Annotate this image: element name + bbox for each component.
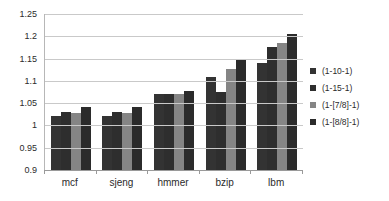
legend-label: (1-10-1) [322, 66, 352, 76]
legend-item[interactable]: (1-15-1) [310, 79, 389, 96]
bar [267, 47, 277, 170]
y-tick-label: 1 [32, 121, 37, 130]
legend-label: (1-[8/8]-1) [322, 117, 359, 127]
bar [164, 94, 174, 170]
bar [206, 77, 216, 170]
y-tick-label: 1.05 [19, 99, 37, 108]
bar [71, 113, 81, 170]
legend-swatch-icon [310, 85, 316, 91]
bar-groups [45, 14, 303, 170]
y-tick-label: 0.9 [24, 166, 37, 175]
x-tick-mark [96, 170, 97, 174]
x-tick-mark [199, 170, 200, 174]
bar [287, 34, 297, 170]
x-tick-mark [147, 170, 148, 174]
gridline [45, 148, 303, 149]
x-tick-mark [302, 170, 303, 174]
bar-group-hmmer [148, 14, 200, 170]
gridline [45, 125, 303, 126]
x-tick-mark [250, 170, 251, 174]
x-axis-labels: mcfsjenghmmerbziplbm [44, 176, 302, 194]
legend-swatch-icon [310, 119, 316, 125]
bar [257, 63, 267, 170]
x-tick-label: bzip [199, 176, 251, 194]
bar [122, 113, 132, 170]
bar [81, 107, 91, 170]
bar [132, 107, 142, 170]
x-tick-label: lbm [250, 176, 302, 194]
bar [51, 116, 61, 170]
bar [277, 43, 287, 170]
y-tick-label: 1.25 [19, 10, 37, 19]
gridline [45, 14, 303, 15]
y-tick-label: 1.1 [24, 76, 37, 85]
bar [61, 112, 71, 170]
legend-label: (1-[7/8]-1) [322, 100, 359, 110]
legend-item[interactable]: (1-[8/8]-1) [310, 113, 389, 130]
x-tick-label: mcf [44, 176, 96, 194]
bar [102, 116, 112, 170]
gridline [45, 59, 303, 60]
y-tick-label: 0.95 [19, 143, 37, 152]
bar-group-mcf [45, 14, 97, 170]
x-tick-label: hmmer [147, 176, 199, 194]
y-tick-label: 1.2 [24, 32, 37, 41]
bar-group-sjeng [97, 14, 149, 170]
bar [154, 94, 164, 170]
gridline [45, 81, 303, 82]
y-tick-label: 1.15 [19, 54, 37, 63]
bar-chart: 1.251.21.151.11.0510.950.9 mcfsjenghmmer… [0, 0, 389, 201]
plot-area [44, 14, 303, 170]
legend-item[interactable]: (1-10-1) [310, 62, 389, 79]
bar [236, 60, 246, 170]
bar [112, 112, 122, 170]
legend-item[interactable]: (1-[7/8]-1) [310, 96, 389, 113]
legend: (1-10-1)(1-15-1)(1-[7/8]-1)(1-[8/8]-1) [310, 62, 389, 130]
x-tick-label: sjeng [96, 176, 148, 194]
x-tick-mark [44, 170, 45, 174]
gridline [45, 103, 303, 104]
legend-swatch-icon [310, 102, 316, 108]
bar-group-bzip [200, 14, 252, 170]
y-axis: 1.251.21.151.11.0510.950.9 [0, 0, 40, 201]
bar [226, 69, 236, 170]
x-axis-line [45, 170, 303, 171]
plot-wrapper: 1.251.21.151.11.0510.950.9 mcfsjenghmmer… [0, 0, 310, 201]
legend-label: (1-15-1) [322, 83, 352, 93]
legend-swatch-icon [310, 68, 316, 74]
bar [174, 94, 184, 170]
gridline [45, 36, 303, 37]
bar-group-lbm [251, 14, 303, 170]
